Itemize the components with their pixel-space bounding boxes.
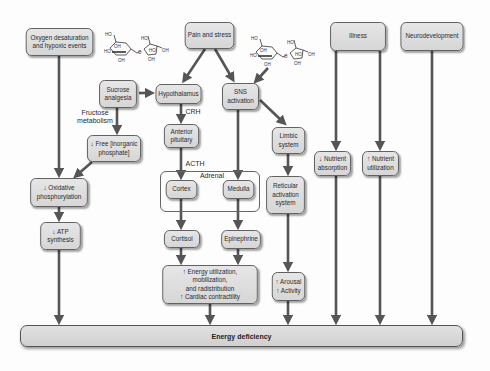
svg-text:OH: OH bbox=[264, 62, 271, 67]
svg-text:OH: OH bbox=[294, 61, 301, 66]
svg-text:HO: HO bbox=[104, 49, 111, 54]
node-energy-deficiency: Energy deficiency bbox=[20, 325, 463, 347]
node-reticular-activation-system: Reticular activation system bbox=[266, 176, 305, 214]
node-nutrient-absorption: ↓ Nutrient absorption bbox=[314, 151, 351, 176]
node-cortex: Cortex bbox=[166, 180, 198, 199]
node-pain-and-stress: Pain and stress bbox=[185, 22, 235, 49]
node-nutrient-utilization: ↑ Nutrient utilization bbox=[362, 151, 399, 176]
svg-text:HO: HO bbox=[141, 36, 148, 41]
svg-text:OH: OH bbox=[148, 57, 155, 62]
svg-text:HO: HO bbox=[251, 36, 258, 41]
svg-text:HO: HO bbox=[105, 32, 112, 37]
svg-text:HO: HO bbox=[149, 48, 156, 53]
svg-text:HO: HO bbox=[287, 40, 294, 45]
svg-text:HO: HO bbox=[250, 53, 257, 58]
node-free-inorganic-phosphate: ↓ Free [inorganic phosphate] bbox=[87, 135, 141, 162]
node-hypothalamus: Hypothalamus bbox=[156, 84, 202, 104]
svg-text:O: O bbox=[138, 50, 142, 55]
node-cortisol: Cortisol bbox=[164, 230, 200, 248]
svg-text:OH: OH bbox=[114, 44, 121, 49]
node-sns-activation: SNS activation bbox=[222, 83, 259, 110]
acth-label: ACTH bbox=[185, 160, 205, 168]
node-medulla: Medulla bbox=[223, 180, 255, 199]
node-sucrose-analgesia: Sucrose analgesia bbox=[99, 80, 137, 108]
adrenal-label: Adrenal bbox=[197, 172, 227, 180]
svg-text:OH: OH bbox=[118, 58, 125, 63]
node-atp-synthesis: ↓ ATP synthesis bbox=[40, 222, 81, 250]
node-arousal-activity: ↑ Arousal ↑ Activity bbox=[272, 272, 305, 301]
svg-text:O: O bbox=[284, 54, 288, 59]
fructose-metabolism-label: Fructose metabolism bbox=[74, 109, 116, 125]
node-epinephrine: Epinephrine bbox=[221, 230, 261, 249]
energy-deficiency-diagram: HO OH HO OH O HO HO OH OH HO OH HO OH O bbox=[0, 0, 490, 371]
crh-label: CRH bbox=[185, 108, 201, 116]
node-anterior-pituitary: Anterior pituitary bbox=[164, 124, 199, 148]
node-neurodevelopment: Neurodevelopment bbox=[401, 22, 464, 51]
node-limbic-system: Limbic system bbox=[272, 127, 305, 154]
svg-text:OH: OH bbox=[260, 48, 267, 53]
svg-text:OH: OH bbox=[162, 48, 169, 53]
node-oxidative-phosphorylation: ↓ Oxidative phosphorylation bbox=[30, 178, 88, 207]
node-oxygen-desaturation: Oxygen desaturation and hypoxic events bbox=[26, 28, 94, 56]
node-energy-utilization: ↑ Energy utilization, mobilization, and … bbox=[162, 265, 257, 304]
svg-text:HO: HO bbox=[295, 52, 302, 57]
node-illness: Illness bbox=[330, 22, 386, 51]
svg-text:OH: OH bbox=[308, 52, 315, 57]
